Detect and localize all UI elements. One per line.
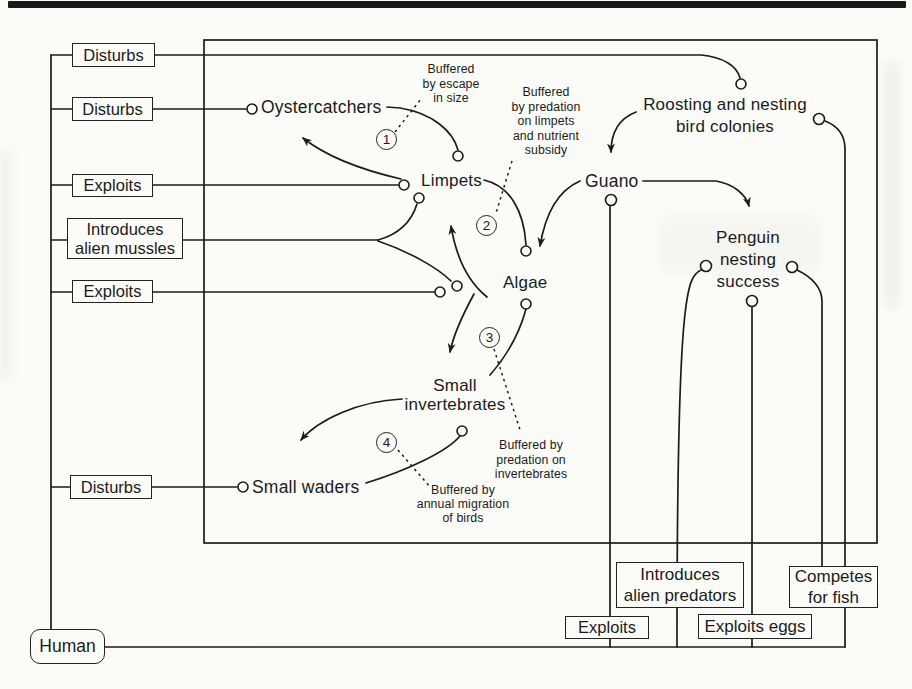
endpoint-limpets-left [399,180,409,190]
node-penguin-nesting: Penguin nesting success [708,227,788,293]
impact-box-exploits-eggs: Exploits eggs [698,614,812,639]
arrow-algae-to-invertebrates [450,294,474,352]
arrow-guano-to-algae [540,181,580,246]
impact-box-exploits-penguins: Exploits [565,616,649,639]
impact-box-disturbs-birds: Disturbs [72,97,153,121]
endpoint-oystercatchers [247,104,257,114]
node-limpets: Limpets [421,171,482,191]
impact-box-disturbs-top: Disturbs [72,43,155,67]
endpoint-limpets-top [453,151,463,161]
buffer-note-2: Buffered by predation on limpets and nut… [503,85,589,158]
buffer-note-3: Buffered by predation on invertebrates [487,438,575,482]
node-algae: Algae [503,273,547,293]
scanned-figure-page: Disturbs Disturbs Exploits Introduces al… [0,0,912,689]
node-small-invertebrates: Small invertebrates [392,376,518,414]
curve-oystercatchers-to-limpets [387,107,458,150]
impact-box-exploits-limpets: Exploits [72,174,153,197]
buffer-note-4: Buffered by annual migration of birds [408,484,518,525]
buffer-note-1: Buffered by escape in size [408,62,494,106]
link-penguins-competes-fish [797,270,822,566]
buffer-marker-4: 4 [376,432,397,453]
endpoint-penguin-right [787,262,798,273]
link-mussels-to-algae [378,241,451,281]
endpoint-algae-bottom [521,299,531,309]
endpoint-waders [238,482,248,492]
impact-box-introduces-predators: Introduces alien predators [616,562,744,608]
endpoint-limpets-mussels [414,193,424,203]
node-roosting-colonies: Roosting and nesting bird colonies [633,94,817,137]
buffer-marker-2: 2 [476,215,497,236]
impact-box-exploits-algae: Exploits [72,280,153,303]
endpoint-penguin-bottom [747,296,758,307]
endpoint-guano-bottom [606,195,617,206]
human-node: Human [30,629,105,664]
impact-box-introduces-mussels: Introduces alien mussles [67,218,183,259]
node-oystercatchers: Oystercatchers [261,97,381,117]
node-small-waders: Small waders [252,477,359,497]
impact-box-disturbs-waders: Disturbs [70,475,152,499]
buffer-marker-3: 3 [479,327,500,348]
endpoint-roosting-top [736,79,746,89]
arrow-guano-to-penguins [643,181,749,206]
endpoint-algae-left [435,287,445,297]
buffer-marker-1: 1 [376,129,397,150]
endpoint-algae-top [521,246,531,256]
endpoint-invertebrates-bottom [457,426,467,436]
node-guano: Guano [585,171,639,191]
impact-box-competes-fish: Competes for fish [789,566,878,608]
link-mussels-to-limpets [378,204,417,240]
dash-buffer2 [496,161,512,213]
endpoint-algae-mussels [452,281,462,291]
